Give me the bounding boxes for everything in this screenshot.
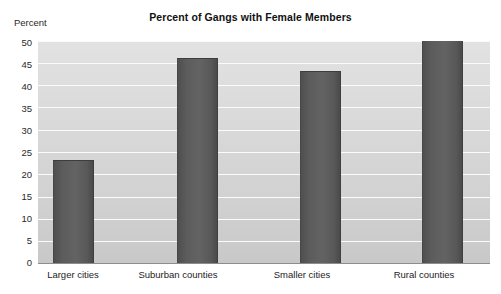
y-tick-35: 35 [6,103,32,114]
bar-larger-cities [53,160,94,264]
bar-chart: Percent of Gangs with Female Members Per… [0,0,501,294]
y-tick-0: 0 [6,257,32,268]
y-axis-label: Percent [14,17,47,28]
chart-title: Percent of Gangs with Female Members [0,11,501,23]
y-tick-45: 45 [6,59,32,70]
x-label-smaller-cities: Smaller cities [256,269,348,280]
y-tick-15: 15 [6,191,32,202]
y-tick-20: 20 [6,169,32,180]
y-tick-30: 30 [6,125,32,136]
y-tick-5: 5 [6,235,32,246]
bar-rural-counties [422,41,463,264]
plot-area [38,41,490,264]
y-tick-25: 25 [6,147,32,158]
x-label-larger-cities: Larger cities [23,269,123,280]
x-axis-line [38,263,490,264]
y-tick-40: 40 [6,81,32,92]
bar-smaller-cities [300,71,341,264]
bar-suburban-counties [177,58,218,264]
x-label-rural-counties: Rural counties [370,269,478,280]
x-label-suburban-counties: Suburban counties [127,269,229,280]
y-tick-50: 50 [6,37,32,48]
y-tick-10: 10 [6,213,32,224]
